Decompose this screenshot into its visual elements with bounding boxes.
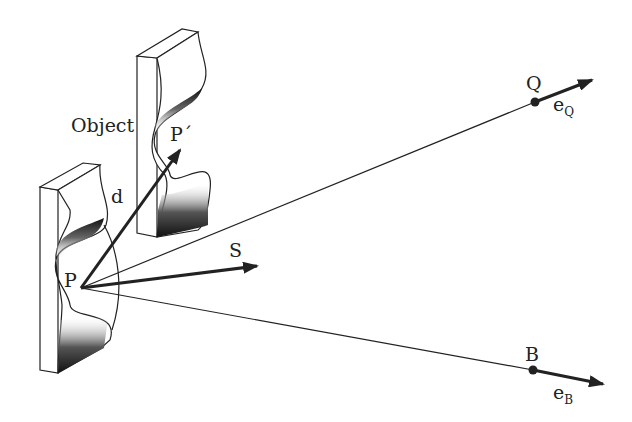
label-s: S bbox=[229, 241, 242, 260]
label-b: B bbox=[525, 345, 539, 364]
e-q-subscript: Q bbox=[564, 105, 574, 119]
e-b-base: e bbox=[553, 381, 564, 403]
label-p: P bbox=[64, 271, 77, 290]
label-p-prime: P´ bbox=[170, 125, 192, 144]
e-b-subscript: B bbox=[564, 393, 573, 407]
vector-e-b bbox=[533, 370, 603, 384]
label-object: Object bbox=[71, 116, 134, 135]
label-d: d bbox=[111, 187, 123, 206]
line-p-to-b bbox=[81, 288, 533, 370]
label-q: Q bbox=[526, 74, 542, 93]
e-q-base: e bbox=[553, 93, 564, 115]
front-panel bbox=[40, 163, 119, 373]
label-e-q: eQ bbox=[553, 95, 574, 114]
label-e-b: eB bbox=[553, 383, 573, 402]
diagram-canvas: Object d P P´ S Q eQ B eB bbox=[0, 0, 632, 422]
